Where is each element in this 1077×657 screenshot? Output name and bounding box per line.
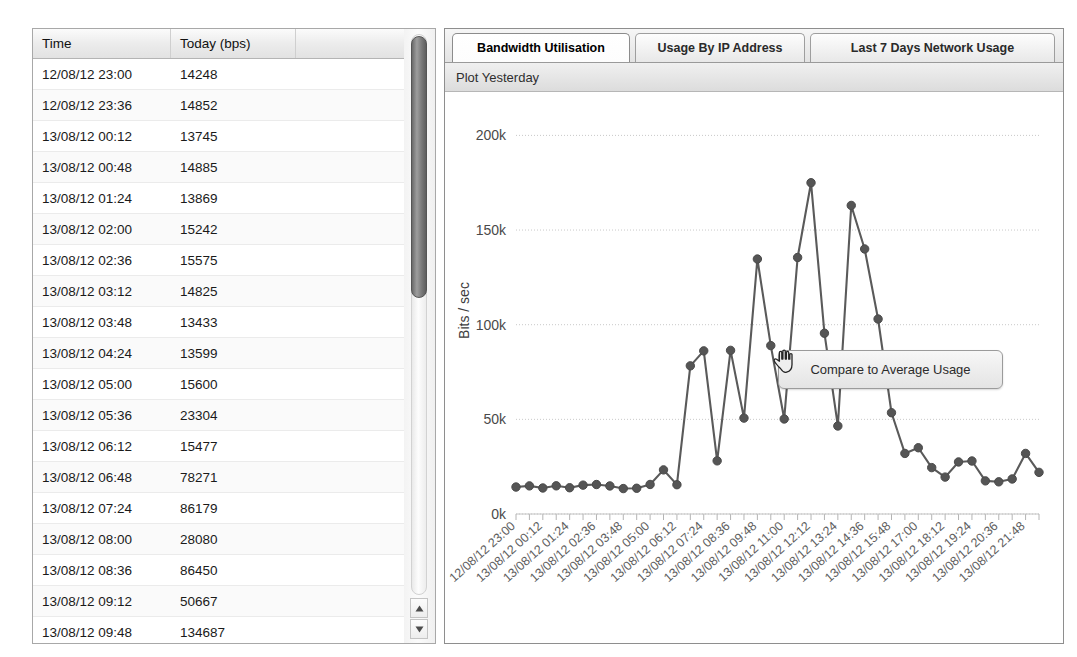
data-point-marker[interactable] (887, 409, 895, 417)
table-vertical-scrollbar[interactable] (404, 28, 436, 644)
cell-time: 13/08/12 06:48 (33, 470, 171, 485)
data-point-marker[interactable] (713, 457, 721, 465)
column-header-time[interactable]: Time (33, 29, 171, 58)
table-row[interactable]: 13/08/12 04:2413599 (33, 338, 435, 369)
cell-today-bps: 15575 (171, 253, 296, 268)
data-point-marker[interactable] (874, 315, 882, 323)
table-row[interactable]: 12/08/12 23:0014248 (33, 59, 435, 90)
data-point-marker[interactable] (807, 179, 815, 187)
data-point-marker[interactable] (700, 347, 708, 355)
cell-today-bps: 15477 (171, 439, 296, 454)
table-row[interactable]: 13/08/12 07:2486179 (33, 493, 435, 524)
data-point-marker[interactable] (901, 449, 909, 457)
y-axis-tick-label: 0k (491, 506, 507, 522)
cell-today-bps: 134687 (171, 625, 296, 640)
table-row[interactable]: 13/08/12 09:1250667 (33, 586, 435, 617)
data-point-marker[interactable] (820, 329, 828, 337)
scroll-down-button[interactable] (410, 619, 428, 639)
triangle-down-icon (415, 626, 424, 633)
data-point-marker[interactable] (954, 458, 962, 466)
tooltip-label: Compare to Average Usage (810, 362, 970, 377)
tab-usage-by-ip-address[interactable]: Usage By IP Address (635, 33, 805, 62)
data-point-marker[interactable] (512, 483, 520, 491)
table-row[interactable]: 13/08/12 08:3686450 (33, 555, 435, 586)
table-row[interactable]: 12/08/12 23:3614852 (33, 90, 435, 121)
data-point-marker[interactable] (579, 481, 587, 489)
table-row[interactable]: 13/08/12 00:4814885 (33, 152, 435, 183)
table-row[interactable]: 13/08/12 05:3623304 (33, 400, 435, 431)
data-point-marker[interactable] (1008, 475, 1016, 483)
data-series-line (516, 183, 1039, 489)
scroll-up-button[interactable] (410, 598, 428, 618)
data-point-marker[interactable] (860, 245, 868, 253)
data-point-marker[interactable] (646, 480, 654, 488)
table-row[interactable]: 13/08/12 03:1214825 (33, 276, 435, 307)
data-point-marker[interactable] (1035, 468, 1043, 476)
cell-time: 13/08/12 02:00 (33, 222, 171, 237)
cell-today-bps: 13433 (171, 315, 296, 330)
cell-time: 13/08/12 03:12 (33, 284, 171, 299)
data-point-marker[interactable] (981, 477, 989, 485)
data-point-marker[interactable] (552, 482, 560, 490)
cell-today-bps: 28080 (171, 532, 296, 547)
table-row[interactable]: 13/08/12 02:3615575 (33, 245, 435, 276)
cell-today-bps: 14885 (171, 160, 296, 175)
cell-today-bps: 86179 (171, 501, 296, 516)
cell-today-bps: 13869 (171, 191, 296, 206)
data-point-marker[interactable] (995, 478, 1003, 486)
data-point-marker[interactable] (780, 415, 788, 423)
data-point-marker[interactable] (686, 362, 694, 370)
data-point-marker[interactable] (740, 414, 748, 422)
table-row[interactable]: 13/08/12 06:1215477 (33, 431, 435, 462)
chart-toolbar: Plot Yesterday (445, 63, 1063, 92)
tab-label: Usage By IP Address (657, 41, 782, 55)
cell-today-bps: 15600 (171, 377, 296, 392)
data-point-marker[interactable] (968, 457, 976, 465)
data-point-marker[interactable] (1021, 449, 1029, 457)
data-point-marker[interactable] (673, 481, 681, 489)
data-point-marker[interactable] (726, 346, 734, 354)
plot-yesterday-link[interactable]: Plot Yesterday (456, 70, 539, 85)
cell-today-bps: 14248 (171, 67, 296, 82)
tab-bar: Bandwidth Utilisation Usage By IP Addres… (445, 29, 1063, 63)
data-point-marker[interactable] (659, 466, 667, 474)
data-point-marker[interactable] (619, 484, 627, 492)
data-point-marker[interactable] (565, 484, 573, 492)
data-point-marker[interactable] (834, 422, 842, 430)
cell-time: 12/08/12 23:00 (33, 67, 171, 82)
cell-time: 13/08/12 05:00 (33, 377, 171, 392)
data-point-marker[interactable] (793, 253, 801, 261)
data-point-marker[interactable] (753, 255, 761, 263)
tab-bandwidth-utilisation[interactable]: Bandwidth Utilisation (452, 33, 630, 62)
cell-time: 13/08/12 09:48 (33, 625, 171, 640)
table-body[interactable]: 12/08/12 23:001424812/08/12 23:361485213… (33, 59, 435, 644)
data-point-marker[interactable] (847, 201, 855, 209)
triangle-up-icon (415, 605, 424, 612)
table-row[interactable]: 13/08/12 06:4878271 (33, 462, 435, 493)
table-row[interactable]: 13/08/12 05:0015600 (33, 369, 435, 400)
cell-today-bps: 15242 (171, 222, 296, 237)
bandwidth-line-chart[interactable]: 0k50k100k150k200kBits / sec12/08/12 23:0… (445, 92, 1063, 644)
table-row[interactable]: 13/08/12 09:48134687 (33, 617, 435, 644)
data-point-marker[interactable] (606, 482, 614, 490)
table-row[interactable]: 13/08/12 02:0015242 (33, 214, 435, 245)
cell-time: 13/08/12 00:12 (33, 129, 171, 144)
data-point-marker[interactable] (539, 484, 547, 492)
usage-data-table: Time Today (bps) 12/08/12 23:001424812/0… (32, 28, 436, 644)
scrollbar-thumb[interactable] (411, 36, 427, 298)
table-row[interactable]: 13/08/12 03:4813433 (33, 307, 435, 338)
compare-to-average-usage-tooltip[interactable]: Compare to Average Usage (778, 350, 1003, 389)
tab-last-7-days-network-usage[interactable]: Last 7 Days Network Usage (810, 33, 1055, 62)
table-row[interactable]: 13/08/12 01:2413869 (33, 183, 435, 214)
data-point-marker[interactable] (928, 463, 936, 471)
table-row[interactable]: 13/08/12 08:0028080 (33, 524, 435, 555)
data-point-marker[interactable] (592, 480, 600, 488)
cell-time: 13/08/12 08:00 (33, 532, 171, 547)
data-point-marker[interactable] (941, 473, 949, 481)
data-point-marker[interactable] (525, 482, 533, 490)
table-row[interactable]: 13/08/12 00:1213745 (33, 121, 435, 152)
cell-today-bps: 23304 (171, 408, 296, 423)
column-header-today-bps[interactable]: Today (bps) (171, 29, 296, 58)
data-point-marker[interactable] (914, 444, 922, 452)
data-point-marker[interactable] (632, 484, 640, 492)
